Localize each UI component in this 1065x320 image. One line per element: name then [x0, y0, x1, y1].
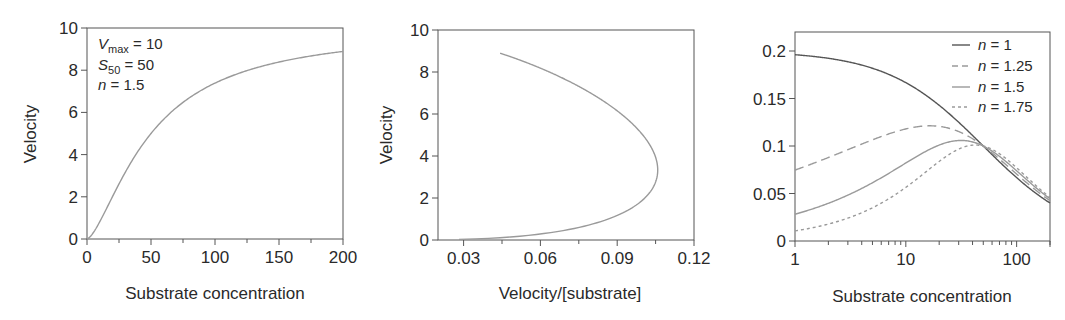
x-tick-label: 100 [1002, 250, 1030, 269]
y-tick-label: 0 [777, 232, 786, 251]
panel-eadie-hofstee: 0.030.060.090.120246810 Velocity/[substr… [377, 21, 711, 303]
curve-n-1-25 [795, 126, 1050, 201]
x-tick-label: 10 [896, 250, 915, 269]
panel-velocity-vs-substrate: 0501001502000246810 Vmax = 10 S50 = 50 n… [21, 19, 357, 303]
x-tick-label: 0 [82, 248, 91, 267]
y-axis-label: Velocity [377, 105, 396, 164]
y-tick-label: 0 [420, 231, 429, 250]
eadie-hofstee-curve [459, 53, 658, 239]
axis-ticks: 11010000.050.10.150.2 [753, 42, 1050, 269]
y-tick-label: 0.1 [762, 137, 786, 156]
y-tick-label: 8 [69, 61, 78, 80]
x-tick-label: 200 [329, 248, 357, 267]
figure: 0501001502000246810 Vmax = 10 S50 = 50 n… [0, 0, 1065, 320]
annotation-n: n = 1.5 [98, 76, 144, 93]
y-tick-label: 0 [69, 230, 78, 249]
x-tick-label: 1 [790, 250, 799, 269]
panel-v-over-s-log: 11010000.050.10.150.2 n = 1 n = 1.25 n =… [753, 32, 1050, 306]
legend-label-n-1: n = 1 [978, 36, 1012, 53]
curve-n-1-5 [795, 140, 1050, 214]
y-tick-label: 10 [410, 21, 429, 40]
legend: n = 1 n = 1.25 n = 1.5 n = 1.75 [952, 36, 1033, 115]
legend-label-n-1-75: n = 1.75 [978, 98, 1033, 115]
x-tick-label: 100 [201, 248, 229, 267]
y-tick-label: 2 [420, 189, 429, 208]
x-tick-label: 0.09 [601, 249, 634, 268]
x-tick-label: 150 [265, 248, 293, 267]
y-tick-label: 10 [59, 19, 78, 38]
annotation-vmax: Vmax = 10 [98, 35, 163, 55]
plot-frame [438, 30, 694, 240]
legend-label-n-1-5: n = 1.5 [978, 78, 1024, 95]
y-tick-label: 6 [420, 105, 429, 124]
x-axis-label: Substrate concentration [125, 284, 305, 303]
x-tick-label: 0.03 [447, 249, 480, 268]
curve-n-1-75 [795, 145, 1050, 231]
y-tick-label: 0.2 [762, 42, 786, 61]
y-tick-label: 4 [69, 146, 78, 165]
legend-label-n-1-25: n = 1.25 [978, 57, 1033, 74]
x-tick-label: 0.12 [677, 249, 710, 268]
curve-n-1 [795, 55, 1050, 203]
y-tick-label: 6 [69, 103, 78, 122]
y-axis-label: Velocity [21, 104, 40, 163]
y-tick-label: 2 [69, 188, 78, 207]
y-tick-label: 0.05 [753, 185, 786, 204]
x-tick-label: 50 [142, 248, 161, 267]
y-tick-label: 4 [420, 147, 429, 166]
x-axis-label: Velocity/[substrate] [499, 284, 642, 303]
annotation-s50: S50 = 50 [98, 56, 154, 76]
x-tick-label: 0.06 [524, 249, 557, 268]
x-axis-label: Substrate concentration [832, 287, 1012, 306]
y-tick-label: 8 [420, 63, 429, 82]
y-tick-label: 0.15 [753, 90, 786, 109]
